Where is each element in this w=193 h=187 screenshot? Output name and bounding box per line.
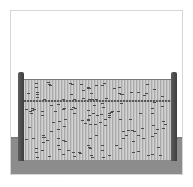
reed-node <box>67 150 70 151</box>
reed-node <box>64 119 67 120</box>
reed-node <box>121 94 124 95</box>
reed-node <box>28 127 31 128</box>
caption-text: · · · · · · · · <box>40 179 180 184</box>
reed-node <box>32 138 35 139</box>
reed-node <box>151 136 154 137</box>
reed-node <box>58 149 61 150</box>
reed-node <box>47 82 50 83</box>
reed-node <box>50 105 53 106</box>
reed-node <box>93 105 96 106</box>
reed-node <box>57 145 60 146</box>
reed-node <box>42 142 45 143</box>
reed-node <box>118 87 121 88</box>
left-fence-post <box>18 72 24 161</box>
reed-node <box>102 107 105 108</box>
reed-node <box>145 93 148 94</box>
reed-node <box>82 98 85 99</box>
reed-node <box>108 155 111 156</box>
reed-node <box>62 140 65 141</box>
reed-node <box>57 129 60 130</box>
reed-node <box>80 84 83 85</box>
reed-node <box>161 96 164 97</box>
reed-node <box>64 141 67 142</box>
reed-node <box>147 155 150 156</box>
reed-node <box>92 113 95 114</box>
reed-node <box>162 121 165 122</box>
reed-node <box>103 83 106 84</box>
reed-node <box>102 157 105 158</box>
reed-node <box>35 83 38 84</box>
reed-node <box>132 141 135 142</box>
reed-node <box>25 139 28 140</box>
reed-node <box>95 135 98 136</box>
reed-node <box>151 113 154 114</box>
reed-node <box>62 154 65 155</box>
reed-node <box>81 120 84 121</box>
reed-node <box>87 145 90 146</box>
reed-node <box>57 104 60 105</box>
reed-node <box>131 130 134 131</box>
reed-node <box>133 131 136 132</box>
reed-node <box>73 113 76 114</box>
reed-node <box>89 124 92 125</box>
image-frame <box>10 10 183 175</box>
reed-node <box>25 109 28 110</box>
reed-node <box>137 135 140 136</box>
reed-node <box>70 94 73 95</box>
reed-node <box>36 157 39 158</box>
reed-node <box>108 113 111 114</box>
reed-node <box>35 152 38 153</box>
reed-node <box>36 92 39 93</box>
reed-node <box>62 109 65 110</box>
reed-node <box>96 115 99 116</box>
reed-node <box>89 138 92 139</box>
reed-node <box>162 128 165 129</box>
reed-node <box>91 157 94 158</box>
reed-node <box>70 109 73 110</box>
reed-node <box>42 135 45 136</box>
reed-node <box>101 150 104 151</box>
reed-node <box>87 110 90 111</box>
reed-node <box>95 85 98 86</box>
reed-node <box>52 122 55 123</box>
reed-node <box>153 89 156 90</box>
reed-node <box>101 85 104 86</box>
reed-node <box>71 84 74 85</box>
reed-node <box>154 133 157 134</box>
reed-node <box>87 119 90 120</box>
reed-node <box>41 150 44 151</box>
reed-node <box>72 107 75 108</box>
reed-node <box>36 94 39 95</box>
reed-node <box>156 129 159 130</box>
binding-wire <box>24 100 171 102</box>
reed-node <box>161 106 164 107</box>
reed-node <box>153 102 156 103</box>
reed-node <box>43 137 46 138</box>
reed-node <box>101 103 104 104</box>
reed-node <box>139 113 142 114</box>
reed-node <box>54 111 57 112</box>
reed-node <box>142 138 145 139</box>
reed-node <box>31 108 34 109</box>
reed-node <box>41 111 44 112</box>
reed-node <box>90 93 93 94</box>
reed-node <box>79 153 82 154</box>
reed-node <box>58 121 61 122</box>
reed-fence-panel <box>24 79 171 160</box>
reed-node <box>78 152 81 153</box>
reed-node <box>108 117 111 118</box>
reed-node <box>137 92 140 93</box>
reed-node <box>73 156 76 157</box>
reed-node <box>94 124 97 125</box>
reed-node <box>119 119 122 120</box>
reed-node <box>111 111 114 112</box>
reed-node <box>29 111 32 112</box>
reed-node <box>41 115 44 116</box>
reed-node <box>151 108 154 109</box>
reed-node <box>49 85 52 86</box>
reed-node <box>141 128 144 129</box>
right-fence-post <box>171 72 177 161</box>
reed-node <box>143 95 146 96</box>
reed-node <box>88 115 91 116</box>
reed-node <box>50 131 53 132</box>
